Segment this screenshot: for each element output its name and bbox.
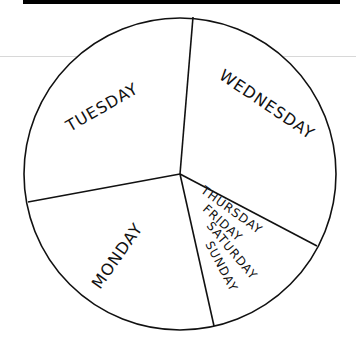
- pie-chart: TUESDAY WEDNESDAY MONDAY THURSDAY FRIDAY…: [0, 0, 356, 348]
